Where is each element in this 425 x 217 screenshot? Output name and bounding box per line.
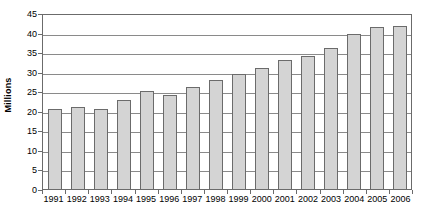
y-axis-tick-label: 40 <box>27 29 37 38</box>
y-axis-tick-labels: 051015202530354045 <box>16 0 40 190</box>
y-axis-tick-label: 45 <box>27 10 37 19</box>
x-axis-tick-labels: 1991199219931994199519961997199819992000… <box>42 195 412 205</box>
x-axis-tick-label: 2006 <box>389 195 412 205</box>
bar[interactable] <box>324 48 338 189</box>
x-axis-tick-label: 1991 <box>42 195 65 205</box>
bar[interactable] <box>232 74 246 189</box>
x-axis-tick-label: 2002 <box>296 195 319 205</box>
x-axis-tick-label: 1997 <box>181 195 204 205</box>
y-axis-tickmark <box>38 190 42 191</box>
x-axis-tick-label: 1996 <box>158 195 181 205</box>
y-axis-tickmark <box>38 53 42 54</box>
y-axis-tickmark <box>38 73 42 74</box>
y-axis-tickmark <box>38 14 42 15</box>
y-axis-title: Millions <box>0 0 16 190</box>
y-axis-tick-label: 30 <box>27 68 37 77</box>
x-axis-tickmark <box>412 190 413 194</box>
bar[interactable] <box>301 56 315 189</box>
y-axis-tick-label: 0 <box>32 186 37 195</box>
y-axis-tick-label: 35 <box>27 49 37 58</box>
bar-slot <box>273 15 296 189</box>
bars-group <box>43 15 411 189</box>
y-axis-tickmark <box>38 131 42 132</box>
x-axis-tick-label: 1995 <box>135 195 158 205</box>
bar[interactable] <box>48 109 62 189</box>
bar[interactable] <box>186 87 200 189</box>
bar-slot <box>342 15 365 189</box>
bar[interactable] <box>209 80 223 190</box>
x-axis-tickmark <box>250 190 251 194</box>
bar-slot <box>181 15 204 189</box>
x-axis-tick-label: 2001 <box>273 195 296 205</box>
bar[interactable] <box>117 100 131 189</box>
bar-slot <box>66 15 89 189</box>
bar-slot <box>158 15 181 189</box>
x-axis-tick-label: 1999 <box>227 195 250 205</box>
plot-area <box>42 14 412 190</box>
bar-slot <box>365 15 388 189</box>
x-axis-tick-label: 1998 <box>204 195 227 205</box>
bar-slot <box>204 15 227 189</box>
bar-slot <box>227 15 250 189</box>
bar-chart: Millions 051015202530354045 199119921993… <box>0 0 425 217</box>
bar[interactable] <box>163 95 177 189</box>
y-axis-tickmark <box>38 170 42 171</box>
bar[interactable] <box>278 60 292 189</box>
bar-slot <box>89 15 112 189</box>
x-axis-tick-label: 1994 <box>111 195 134 205</box>
y-axis-tick-label: 5 <box>32 166 37 175</box>
x-axis-tick-label: 2005 <box>366 195 389 205</box>
bar[interactable] <box>255 68 269 189</box>
y-axis-tick-label: 25 <box>27 88 37 97</box>
x-axis: 1991199219931994199519961997199819992000… <box>42 190 412 217</box>
x-axis-tick-label: 1992 <box>65 195 88 205</box>
y-axis-tick-label: 10 <box>27 146 37 155</box>
bar-slot <box>43 15 66 189</box>
y-axis-tickmark <box>38 34 42 35</box>
x-axis-tick-label: 2004 <box>343 195 366 205</box>
bar-slot <box>112 15 135 189</box>
y-axis-title-label: Millions <box>3 77 13 112</box>
bar[interactable] <box>71 107 85 189</box>
bar-slot <box>296 15 319 189</box>
bar-slot <box>135 15 158 189</box>
y-axis-tickmark <box>38 151 42 152</box>
y-axis-tick-label: 15 <box>27 127 37 136</box>
y-axis-tickmark <box>38 112 42 113</box>
x-axis-tickmark <box>42 190 43 194</box>
bar[interactable] <box>393 26 407 189</box>
bar[interactable] <box>140 91 154 189</box>
x-axis-tick-label: 2003 <box>320 195 343 205</box>
bar-slot <box>319 15 342 189</box>
x-axis-tick-label: 2000 <box>250 195 273 205</box>
y-axis-tickmark <box>38 92 42 93</box>
bar-slot <box>388 15 411 189</box>
x-axis-tickmark <box>65 190 66 194</box>
y-axis-tick-label: 20 <box>27 107 37 116</box>
bar[interactable] <box>347 34 361 189</box>
x-axis-tickmark <box>227 190 228 194</box>
bar-slot <box>250 15 273 189</box>
bar[interactable] <box>94 109 108 189</box>
x-axis-tick-label: 1993 <box>88 195 111 205</box>
bar[interactable] <box>370 27 384 189</box>
